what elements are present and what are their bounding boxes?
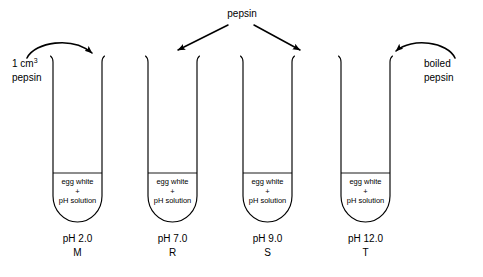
tube-M-id-label: M: [33, 246, 123, 260]
tube-M-ph-label: pH 2.0: [33, 232, 123, 246]
tube-S-contents-line2: +: [234, 187, 302, 197]
tube-R-id-label: R: [128, 246, 218, 260]
label-boiled-pepsin-line1: boiled: [424, 58, 451, 70]
tube-T-caption: pH 12.0 T: [321, 232, 411, 259]
arrow-boiled-pepsin-to-tube-T: [396, 43, 455, 58]
tube-R-contents-line1: egg white: [139, 177, 207, 187]
tube-R-caption: pH 7.0 R: [128, 232, 218, 259]
pepsin-ph-experiment-diagram: pepsin 1 cm3 pepsin boiled pepsin egg wh…: [0, 0, 483, 277]
tube-T-contents-line3: pH solution: [332, 196, 400, 206]
tube-T-ph-label: pH 12.0: [321, 232, 411, 246]
tube-S-contents-line3: pH solution: [234, 196, 302, 206]
tube-M-contents: egg white + pH solution: [44, 177, 112, 206]
arrow-pepsin-to-tube-S: [254, 25, 300, 50]
label-pepsin-left: pepsin: [12, 72, 41, 84]
arrow-pepsin-to-tube-R: [178, 25, 228, 50]
label-boiled-pepsin-line2: pepsin: [424, 72, 453, 84]
label-pepsin-top: pepsin: [214, 8, 270, 20]
tube-M-contents-line2: +: [44, 187, 112, 197]
tube-M-contents-line1: egg white: [44, 177, 112, 187]
tube-T-contents: egg white + pH solution: [332, 177, 400, 206]
tube-M-caption: pH 2.0 M: [33, 232, 123, 259]
tube-T-id-label: T: [321, 246, 411, 260]
tube-S-contents: egg white + pH solution: [234, 177, 302, 206]
tube-R-contents-line3: pH solution: [139, 196, 207, 206]
tube-T-contents-line2: +: [332, 187, 400, 197]
tube-R-ph-label: pH 7.0: [128, 232, 218, 246]
label-pepsin-volume-superscript: 3: [34, 57, 38, 64]
tube-R-contents: egg white + pH solution: [139, 177, 207, 206]
tube-T-contents-line1: egg white: [332, 177, 400, 187]
tube-S-id-label: S: [223, 246, 313, 260]
label-pepsin-volume-value: 1 cm: [12, 58, 34, 69]
label-pepsin-volume-left: 1 cm3: [12, 58, 38, 70]
tube-S-ph-label: pH 9.0: [223, 232, 313, 246]
tube-R-contents-line2: +: [139, 187, 207, 197]
tube-S-caption: pH 9.0 S: [223, 232, 313, 259]
tube-S-contents-line1: egg white: [234, 177, 302, 187]
tube-M-contents-line3: pH solution: [44, 196, 112, 206]
